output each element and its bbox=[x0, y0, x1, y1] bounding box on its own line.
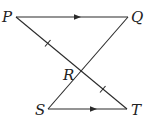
label-t: T bbox=[131, 101, 142, 119]
parallel-arrow-icon-st bbox=[90, 106, 97, 112]
label-s: S bbox=[35, 101, 45, 119]
segment-pt bbox=[16, 17, 127, 109]
label-p: P bbox=[1, 8, 13, 26]
label-q: Q bbox=[131, 8, 143, 26]
geometry-diagram: P Q R S T bbox=[0, 0, 150, 119]
segment-qs bbox=[48, 17, 128, 109]
parallel-arrow-icon-pq bbox=[74, 14, 81, 20]
label-r: R bbox=[62, 66, 74, 84]
